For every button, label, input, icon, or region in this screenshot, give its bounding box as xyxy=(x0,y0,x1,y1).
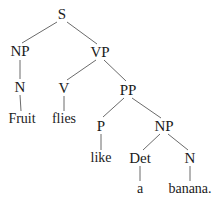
tree-node-det: Det xyxy=(129,151,151,166)
tree-edge-np2-to-n2 xyxy=(168,134,188,150)
syntax-tree-diagram: SNPVPNVPPFruitfliesPNPlikeDetNabanana. xyxy=(0,0,222,202)
tree-edge-s-to-np1 xyxy=(22,22,57,43)
tree-node-s: S xyxy=(58,7,66,22)
tree-edge-n1-to-fruit xyxy=(20,95,21,111)
tree-node-pp: PP xyxy=(120,83,137,98)
tree-edge-s-to-vp xyxy=(67,22,97,44)
tree-terminal-fruit: Fruit xyxy=(8,112,35,126)
tree-terminal-banana: banana. xyxy=(168,182,211,196)
tree-edge-vp-to-pp xyxy=(104,60,126,81)
tree-edge-np2-to-det xyxy=(143,134,160,150)
tree-node-np2: NP xyxy=(154,119,173,134)
tree-edge-pp-to-np2 xyxy=(132,98,161,118)
tree-node-vp: VP xyxy=(90,45,109,60)
tree-node-v: V xyxy=(59,81,70,96)
tree-terminal-flies: flies xyxy=(52,112,76,126)
tree-terminal-a: a xyxy=(137,182,143,196)
tree-node-p: P xyxy=(97,119,105,134)
tree-terminal-like: like xyxy=(91,151,112,165)
tree-node-n2: N xyxy=(185,151,196,166)
tree-edges-layer xyxy=(0,0,222,202)
tree-node-np1: NP xyxy=(10,44,29,59)
tree-node-n1: N xyxy=(15,80,26,95)
tree-edge-vp-to-v xyxy=(67,60,96,80)
tree-edge-pp-to-p xyxy=(103,98,124,117)
